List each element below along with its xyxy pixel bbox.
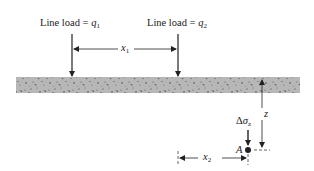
x1-subscript: 1 <box>126 47 130 55</box>
x1-label: x1 <box>121 43 129 55</box>
stress-label: Δσz <box>236 116 251 128</box>
z-symbol: z <box>264 108 268 119</box>
x2-label: x2 <box>203 152 211 164</box>
x2-subscript: 2 <box>208 156 212 164</box>
point-a-label: A <box>236 145 242 156</box>
stress-subscript: z <box>248 120 251 128</box>
load-q2-subscript: 2 <box>203 22 207 30</box>
load-q2-label: Line load = q2 <box>147 18 207 30</box>
load-q1-label: Line load = q1 <box>40 18 100 30</box>
point-a-marker <box>245 147 251 153</box>
load-q2-prefix: Line load = <box>147 17 198 28</box>
load-q1-subscript: 1 <box>96 22 100 30</box>
soil-surface-band <box>16 77 300 93</box>
stress-delta: Δ <box>236 115 243 126</box>
z-label: z <box>264 109 268 120</box>
load-q1-prefix: Line load = <box>40 17 91 28</box>
